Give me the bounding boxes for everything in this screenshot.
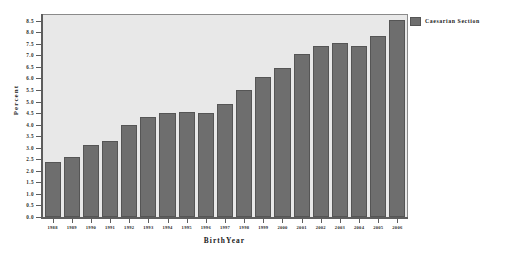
caesarian-section-bar-chart: 0.00.51.01.52.02.53.03.54.04.55.05.56.06… [0, 0, 529, 260]
bar[interactable] [179, 112, 195, 217]
y-axis-tick-label: 5.0 [26, 98, 34, 107]
bar-slot [43, 15, 62, 217]
bar[interactable] [389, 20, 405, 217]
x-axis-tick-label: 2005 [373, 224, 383, 231]
y-axis-tick: 8.0 [0, 28, 41, 37]
x-axis-tick-label: 1995 [182, 224, 192, 231]
bar[interactable] [217, 104, 233, 217]
bar[interactable] [332, 43, 348, 217]
x-axis-tick-mark [206, 219, 207, 223]
y-axis-tick-label: 4.5 [26, 109, 34, 118]
y-axis-tick: 5.0 [0, 98, 41, 107]
bar-slot [215, 15, 234, 217]
bar-slot [254, 15, 273, 217]
y-axis-tick-mark [36, 44, 41, 45]
x-axis-tick-label: 2002 [316, 224, 326, 231]
bar[interactable] [370, 36, 386, 217]
bar-slot [62, 15, 81, 217]
y-axis-tick-mark [36, 194, 41, 195]
bar[interactable] [198, 113, 214, 217]
bar[interactable] [294, 54, 310, 217]
x-axis-tick-mark [302, 219, 303, 223]
bar-slot [235, 15, 254, 217]
bar[interactable] [45, 162, 61, 217]
y-axis-tick: 0.0 [0, 213, 41, 222]
x-axis-tick-mark [378, 219, 379, 223]
y-axis-tick-mark [36, 102, 41, 103]
x-axis-tick-label: 1993 [143, 224, 153, 231]
x-axis-tick-mark [244, 219, 245, 223]
x-axis-tick-mark [340, 219, 341, 223]
y-axis-tick-mark [36, 113, 41, 114]
y-axis-tick: 0.5 [0, 201, 41, 210]
y-axis-tick-label: 1.5 [26, 178, 34, 187]
x-axis-tick-mark [72, 219, 73, 223]
bar-slot [350, 15, 369, 217]
x-axis-tick-label: 1999 [258, 224, 268, 231]
x-axis-tick-mark [263, 219, 264, 223]
bar[interactable] [159, 113, 175, 217]
bar-slot [139, 15, 158, 217]
y-axis-tick: 6.0 [0, 74, 41, 83]
legend-swatch-caesarian-section [410, 17, 421, 26]
y-axis-tick-label: 6.0 [26, 74, 34, 83]
x-axis-tick-mark [129, 219, 130, 223]
y-axis-tick-mark [36, 21, 41, 22]
bar-slot [369, 15, 388, 217]
y-axis-tick: 1.0 [0, 190, 41, 199]
y-axis-tick-mark [36, 32, 41, 33]
x-axis-tick-label: 2001 [297, 224, 307, 231]
x-axis-tick-mark [187, 219, 188, 223]
y-axis-tick-label: 2.5 [26, 155, 34, 164]
x-axis-tick-label: 1988 [47, 224, 57, 231]
y-axis-tick-label: 3.5 [26, 132, 34, 141]
y-axis-tick-mark [36, 148, 41, 149]
y-axis-tick-label: 4.0 [26, 121, 34, 130]
y-axis-tick: 8.5 [0, 17, 41, 26]
bar[interactable] [83, 145, 99, 217]
bar[interactable] [313, 46, 329, 217]
bar[interactable] [351, 46, 367, 217]
bar-slot [330, 15, 349, 217]
bar[interactable] [121, 125, 137, 217]
y-axis-tick: 2.5 [0, 155, 41, 164]
bar-slot [120, 15, 139, 217]
x-axis-tick-label: 1994 [162, 224, 172, 231]
x-axis-tick-label: 2004 [354, 224, 364, 231]
x-axis-tick-mark [148, 219, 149, 223]
y-axis-tick-mark [36, 136, 41, 137]
bar-slot [196, 15, 215, 217]
y-axis-tick: 3.5 [0, 132, 41, 141]
x-axis-title: BirthYear [41, 236, 408, 245]
y-axis-tick-label: 0.5 [26, 201, 34, 210]
y-axis-tick: 5.5 [0, 86, 41, 95]
y-axis-tick: 3.0 [0, 144, 41, 153]
bar-slot [100, 15, 119, 217]
y-axis-tick: 6.5 [0, 63, 41, 72]
y-axis-tick-label: 5.5 [26, 86, 34, 95]
chart-legend: Caesarian Section [410, 16, 480, 26]
y-axis-tick-label: 2.0 [26, 167, 34, 176]
y-axis-tick: 2.0 [0, 167, 41, 176]
y-axis-tick-mark [36, 67, 41, 68]
bar-slot [311, 15, 330, 217]
y-axis-tick-mark [36, 90, 41, 91]
x-axis-tick-label: 1990 [86, 224, 96, 231]
bar-slot [158, 15, 177, 217]
bar[interactable] [255, 77, 271, 217]
x-axis-tick-label: 2000 [277, 224, 287, 231]
y-axis-tick: 4.5 [0, 109, 41, 118]
y-axis-tick-label: 8.0 [26, 28, 34, 37]
bar[interactable] [102, 141, 118, 217]
bar[interactable] [140, 117, 156, 217]
bar[interactable] [274, 68, 290, 217]
x-axis-tick-mark [53, 219, 54, 223]
y-axis-tick-label: 7.0 [26, 51, 34, 60]
y-axis-tick-label: 8.5 [26, 17, 34, 26]
y-axis-tick-mark [36, 55, 41, 56]
bar[interactable] [236, 90, 252, 217]
x-axis-tick-label: 1989 [67, 224, 77, 231]
x-axis-tick-label: 2006 [392, 224, 402, 231]
y-axis-tick-mark [36, 217, 41, 218]
bar[interactable] [64, 157, 80, 217]
